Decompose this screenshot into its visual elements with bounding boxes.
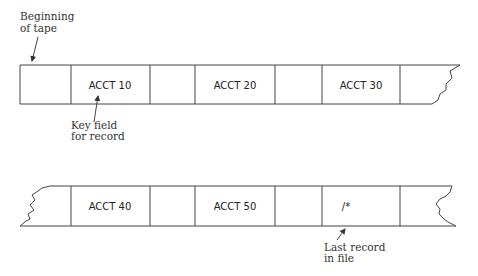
key-field-label-line2: for record (71, 130, 125, 142)
beginning-of-tape-label-line2: of tape (20, 22, 57, 34)
record-acct-40: ACCT 40 (89, 201, 132, 212)
tape-segment-bottom: ACCT 40 ACCT 50 /* (20, 186, 456, 226)
last-record-arrow (337, 229, 345, 240)
record-acct-20: ACCT 20 (214, 80, 257, 91)
beginning-of-tape-arrow (32, 37, 38, 61)
record-end-of-file-marker: /* (342, 201, 350, 212)
record-acct-30: ACCT 30 (340, 80, 383, 91)
tape-segment-top: ACCT 10 ACCT 20 ACCT 30 (20, 65, 460, 104)
record-acct-50: ACCT 50 (214, 201, 257, 212)
beginning-of-tape-label-line1: Beginning (20, 10, 75, 22)
tape-diagram: Beginning of tape ACCT 10 ACCT 20 ACCT 3… (0, 0, 478, 276)
record-acct-10: ACCT 10 (89, 80, 132, 91)
last-record-label-line2: in file (324, 252, 354, 264)
